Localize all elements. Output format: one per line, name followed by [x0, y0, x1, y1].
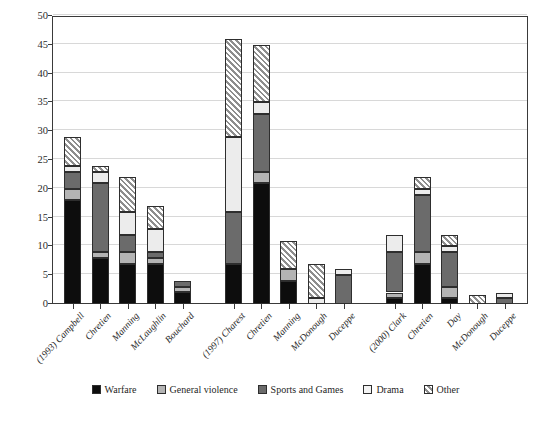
bars-layer [52, 16, 528, 304]
bar-segment-sports [386, 252, 403, 292]
x-category-label: Chretien [404, 310, 435, 342]
bar-stack [119, 177, 136, 304]
legend-item-general: General violence [157, 384, 238, 395]
bar-segment-sports [174, 281, 191, 287]
y-tick-label: 20 [4, 184, 48, 194]
bar-stack [253, 45, 270, 304]
bar-stack [174, 281, 191, 304]
bar-stack [386, 235, 403, 304]
legend-swatch-sports-icon [258, 385, 267, 394]
x-tick-mark [261, 304, 262, 309]
bar-segment-general [174, 287, 191, 293]
bar-segment-drama [414, 189, 431, 195]
y-tick-label: 25 [4, 155, 48, 165]
legend-label: Sports and Games [271, 384, 344, 395]
x-category-label: (1997) Charest [199, 310, 247, 360]
bar-stack [92, 166, 109, 304]
y-tick-label: 10 [4, 241, 48, 251]
bar-segment-other [469, 295, 486, 304]
y-tick-label: 5 [4, 270, 48, 280]
x-tick-mark [505, 304, 506, 309]
bar-segment-sports [119, 235, 136, 252]
x-category-label: (1993) Campbell [33, 310, 86, 365]
bar-segment-other [441, 235, 458, 247]
x-tick-mark [422, 304, 423, 309]
bar-segment-warfare [174, 292, 191, 304]
x-tick-mark [183, 304, 184, 309]
x-category-label: Bouchard [162, 310, 196, 345]
bar-segment-sports [64, 172, 81, 189]
bar-segment-drama [147, 229, 164, 252]
x-tick-mark [395, 304, 396, 309]
bar-segment-general [280, 269, 297, 281]
bar-segment-warfare [225, 264, 242, 304]
bar-stack [308, 264, 325, 304]
x-tick-mark [344, 304, 345, 309]
x-tick-mark [128, 304, 129, 309]
bar-segment-other [225, 39, 242, 137]
bar-segment-general [414, 252, 431, 264]
legend-label: Warfare [105, 384, 137, 395]
bar-stack [414, 177, 431, 304]
legend-swatch-drama-icon [363, 385, 372, 394]
legend-item-other: Other [424, 384, 460, 395]
bar-segment-sports [414, 195, 431, 253]
y-tick-label: 30 [4, 126, 48, 136]
y-tick-label: 15 [4, 213, 48, 223]
bar-segment-warfare [119, 264, 136, 304]
bar-stack [469, 295, 486, 304]
bar-segment-general [386, 293, 403, 299]
bar-segment-drama [441, 246, 458, 252]
bar-segment-general [64, 189, 81, 201]
bar-segment-sports [335, 275, 352, 304]
bar-segment-other [64, 137, 81, 166]
x-tick-mark [234, 304, 235, 309]
bar-segment-general [253, 172, 270, 184]
x-tick-mark [73, 304, 74, 309]
legend-item-warfare: Warfare [92, 384, 137, 395]
x-category-label: Duceppe [486, 310, 517, 342]
x-category-label: (2000) Clark [366, 310, 408, 354]
x-tick-mark [289, 304, 290, 309]
x-tick-mark [450, 304, 451, 309]
bar-segment-warfare [414, 264, 431, 304]
bar-stack [335, 269, 352, 304]
x-tick-mark [316, 304, 317, 309]
legend-label: Other [437, 384, 460, 395]
x-category-label: Day [444, 310, 463, 329]
bar-segment-drama [496, 293, 513, 299]
bar-segment-other [119, 177, 136, 212]
x-axis-labels: (1993) CampbellChretienManningMcLaughlin… [52, 310, 532, 380]
bar-segment-other [414, 177, 431, 189]
bar-segment-sports [92, 183, 109, 252]
bar-segment-sports [253, 114, 270, 172]
bar-segment-general [92, 252, 109, 258]
bar-segment-drama [92, 172, 109, 184]
y-tick-label: 35 [4, 97, 48, 107]
bar-segment-drama [386, 235, 403, 252]
x-tick-mark [100, 304, 101, 309]
bar-stack [496, 292, 513, 304]
legend-item-drama: Drama [363, 384, 403, 395]
bar-segment-drama [119, 212, 136, 235]
bar-segment-warfare [92, 258, 109, 304]
bar-segment-sports [441, 252, 458, 287]
bar-segment-general [147, 258, 164, 264]
bar-segment-sports [147, 252, 164, 258]
stacked-bar-chart-figure: 05101520253035404550 (1993) CampbellChre… [0, 0, 551, 427]
y-tick-label: 45 [4, 40, 48, 50]
bar-segment-drama [335, 269, 352, 275]
legend-swatch-other-icon [424, 385, 433, 394]
bar-segment-sports [225, 212, 242, 264]
chart-legend: WarfareGeneral violenceSports and GamesD… [0, 384, 551, 395]
x-category-label: Chretien [243, 310, 274, 342]
bar-segment-general [119, 252, 136, 264]
x-category-label: Duceppe [325, 310, 356, 342]
legend-swatch-general-icon [157, 385, 166, 394]
legend-label: General violence [170, 384, 238, 395]
legend-swatch-warfare-icon [92, 385, 101, 394]
bar-segment-warfare [147, 264, 164, 304]
bar-segment-other [147, 206, 164, 229]
bar-stack [441, 235, 458, 304]
bar-stack [280, 241, 297, 304]
